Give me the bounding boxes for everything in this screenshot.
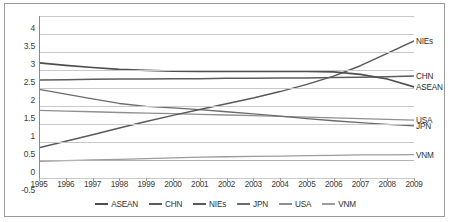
y-axis-line: [39, 16, 40, 178]
series-end-label-jpn: JPN: [416, 121, 431, 130]
y-tick-label: 3.5: [5, 41, 35, 51]
legend-label: USA: [295, 200, 311, 209]
legend-label: VNM: [338, 200, 356, 209]
legend-swatch: [95, 203, 108, 205]
x-tick-label: 2004: [271, 180, 288, 189]
y-tick-label: 2.5: [5, 77, 35, 87]
y-tick-label: 3: [5, 59, 35, 69]
series-end-labels: NIEsCHNASEANUSAJPNVNM: [415, 16, 449, 178]
x-tick-label: 1995: [30, 180, 47, 189]
y-axis-labels: -0.500.511.522.533.54: [5, 16, 35, 178]
x-tick-label: 2006: [325, 180, 342, 189]
legend-swatch: [193, 203, 206, 205]
gridline: [39, 88, 414, 89]
plot-area: [39, 16, 414, 178]
y-tick-label: 4: [5, 23, 35, 33]
plot-inner: [39, 16, 414, 178]
gridline: [39, 106, 414, 107]
y-tick-label: 1: [5, 131, 35, 141]
legend-label: ASEAN: [111, 200, 138, 209]
series-end-label-vnm: VNM: [416, 150, 434, 159]
legend-swatch: [149, 203, 162, 205]
legend-item-jpn[interactable]: JPN: [237, 200, 268, 209]
y-tick-label: 1.5: [5, 113, 35, 123]
y-tick-label: 0.5: [5, 149, 35, 159]
series-end-label-asean: ASEAN: [416, 82, 443, 91]
gridline: [39, 34, 414, 35]
gridline: [39, 124, 414, 125]
x-tick-label: 2003: [245, 180, 262, 189]
x-tick-label: 2009: [405, 180, 422, 189]
x-axis-labels: 1995199619971998199920002001200220032004…: [39, 180, 414, 193]
gridline: [39, 16, 414, 17]
zero-gridline: [39, 160, 414, 161]
legend-label: NIEs: [209, 200, 226, 209]
legend-item-asean[interactable]: ASEAN: [95, 200, 138, 209]
legend-swatch: [322, 203, 335, 205]
gridline: [39, 70, 414, 71]
x-tick-label: 2005: [298, 180, 315, 189]
legend-item-nies[interactable]: NIEs: [193, 200, 226, 209]
x-tick-label: 1999: [138, 180, 155, 189]
y-tick-label: 0: [5, 167, 35, 177]
series-end-label-nies: NIEs: [416, 36, 433, 45]
x-tick-label: 1997: [84, 180, 101, 189]
legend-item-chn[interactable]: CHN: [149, 200, 182, 209]
x-tick-label: 2000: [164, 180, 181, 189]
legend-swatch: [237, 203, 250, 205]
x-tick-label: 2002: [218, 180, 235, 189]
x-tick-label: 1996: [57, 180, 74, 189]
x-tick-label: 2008: [379, 180, 396, 189]
legend-swatch: [279, 203, 292, 205]
gridline: [39, 52, 414, 53]
legend-item-vnm[interactable]: VNM: [322, 200, 356, 209]
chart-frame: -0.500.511.522.533.54 199519961997199819…: [4, 3, 445, 217]
x-tick-label: 2007: [352, 180, 369, 189]
chart-legend: ASEANCHNNIEsJPNUSAVNM: [5, 196, 446, 212]
legend-label: CHN: [165, 200, 182, 209]
series-end-label-chn: CHN: [416, 72, 433, 81]
legend-label: JPN: [253, 200, 268, 209]
gridline: [39, 142, 414, 143]
y-tick-label: 2: [5, 95, 35, 105]
x-tick-label: 2001: [191, 180, 208, 189]
x-tick-label: 1998: [111, 180, 128, 189]
legend-item-usa[interactable]: USA: [279, 200, 311, 209]
